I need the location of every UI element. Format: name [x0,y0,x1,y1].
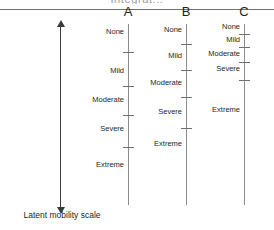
category-label-a-none: None [106,28,124,36]
threshold-tick-a-3 [123,115,134,116]
scale-axis-line-b [186,24,187,205]
category-label-b-moderate: Moderate [150,79,182,87]
category-label-c-moderate: Moderate [208,50,240,58]
scale-header-a: A [119,4,137,19]
header-divider [0,9,274,10]
category-label-b-extreme: Extreme [154,140,182,148]
threshold-tick-c-4 [239,80,250,81]
category-label-b-none: None [164,26,182,34]
threshold-tick-c-3 [239,62,250,63]
category-label-a-extreme: Extreme [96,161,124,169]
scale-header-b: B [177,4,195,19]
category-label-b-severe: Severe [158,108,182,116]
category-label-a-moderate: Moderate [92,96,124,104]
threshold-tick-b-3 [181,97,192,98]
scale-header-c: C [235,4,253,19]
threshold-tick-c-1 [239,34,250,35]
latent-scale-caption: Latent mobility scale [0,210,124,220]
category-label-a-mild: Mild [110,67,124,75]
threshold-tick-b-2 [181,70,192,71]
scale-axis-line-c [244,24,245,205]
category-label-c-none: None [222,23,240,31]
running-title: Integrat... [0,0,274,4]
category-label-c-mild: Mild [226,36,240,44]
category-label-b-mild: Mild [168,52,182,60]
latent-scale-arrow-icon [60,26,61,208]
category-label-c-severe: Severe [216,65,240,73]
threshold-tick-c-2 [239,47,250,48]
figure-panel: Integrat... Latent mobility scale ANoneM… [0,0,274,230]
threshold-tick-a-4 [123,147,134,148]
threshold-tick-a-2 [123,86,134,87]
threshold-tick-a-1 [123,52,134,53]
threshold-tick-b-4 [181,128,192,129]
category-label-c-extreme: Extreme [212,106,240,114]
threshold-tick-b-1 [181,44,192,45]
category-label-a-severe: Severe [100,125,124,133]
